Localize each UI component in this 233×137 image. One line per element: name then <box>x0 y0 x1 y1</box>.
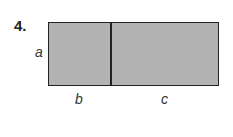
problem-number: 4. <box>14 17 27 34</box>
rectangle-divider <box>110 23 112 85</box>
label-c: c <box>161 91 168 107</box>
label-a: a <box>35 44 43 60</box>
rectangle-figure <box>48 22 219 86</box>
label-b: b <box>75 91 83 107</box>
